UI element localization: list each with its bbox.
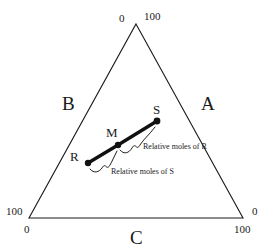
triangle-outline [29,24,243,218]
point-marker-m [115,142,121,148]
axis-label-bottom-right-lower: 100 [234,224,251,235]
axis-label-apex-right: 100 [144,11,161,22]
point-label-r: R [70,150,79,163]
ternary-diagram-figure: 0 100 100 0 0 100 B A C R M S Relative m… [0,0,274,252]
annotation-relative-moles-of-r: Relative moles of R [143,143,207,151]
point-label-s: S [153,103,160,116]
point-label-m: M [106,126,118,139]
vertex-label-a: A [201,94,215,113]
vertex-label-c: C [130,228,143,247]
axis-label-bottom-left-lower: 0 [24,224,30,235]
point-marker-r [85,160,91,166]
axis-label-apex-left: 0 [119,13,125,24]
axis-label-bottom-right-upper: 0 [252,206,258,217]
vertex-label-b: B [62,94,75,113]
point-marker-s [154,118,161,125]
axis-label-bottom-left-upper: 100 [6,206,23,217]
ternary-diagram-canvas [0,0,274,252]
annotation-relative-moles-of-s: Relative moles of S [111,168,174,176]
